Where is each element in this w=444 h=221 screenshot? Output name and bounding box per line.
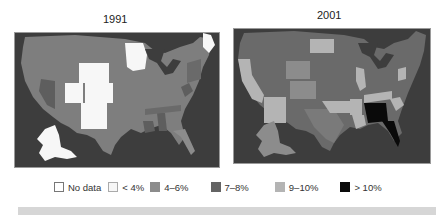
state-northeast: [187, 59, 201, 83]
map-1991: [14, 32, 220, 168]
swatch-9-10: [275, 182, 285, 192]
map-2001: [233, 28, 431, 164]
swatch-4-6: [150, 182, 160, 192]
swatch-lt4: [108, 182, 118, 192]
state-florida: [173, 129, 195, 155]
legend-item-7-8: 7–8%: [211, 182, 249, 193]
state-arkansas: [350, 99, 362, 115]
state-minnesota: [125, 43, 147, 71]
state-alaska: [256, 121, 296, 157]
state-new-mexico: [81, 103, 107, 129]
map-title-2001: 2001: [317, 9, 341, 21]
state-ohio-region: [398, 67, 406, 81]
state-arizona: [264, 97, 286, 123]
legend: No data < 4% 4–6% 7–8% 9–10% > 10%: [54, 180, 382, 194]
legend-label: 4–6%: [164, 182, 188, 193]
state-north-dakota: [310, 39, 334, 53]
us-map-2001: [234, 29, 431, 164]
legend-item-lt4: < 4%: [108, 182, 144, 193]
state-wyoming: [79, 63, 109, 83]
us-map-1991: [15, 33, 220, 168]
state-louisiana: [143, 121, 155, 133]
state-colorado: [85, 83, 113, 103]
legend-label: 9–10%: [289, 182, 319, 193]
legend-label: No data: [68, 182, 101, 193]
state-alaska: [37, 125, 77, 161]
state-mississippi-alabama: [364, 103, 388, 123]
legend-label: 7–8%: [225, 182, 249, 193]
legend-item-4-6: 4–6%: [150, 182, 188, 193]
legend-label: > 10%: [354, 182, 381, 193]
state-colorado: [290, 81, 316, 99]
swatch-7-8: [211, 182, 221, 192]
divider-bar: [18, 207, 436, 215]
legend-item-9-10: 9–10%: [275, 182, 319, 193]
swatch-gt10: [340, 182, 350, 192]
state-utah: [65, 83, 83, 103]
state-wyoming: [286, 61, 310, 79]
legend-label: < 4%: [122, 182, 144, 193]
map-title-1991: 1991: [103, 13, 127, 25]
legend-item-no-data: No data: [54, 182, 101, 193]
swatch-no-data: [54, 182, 64, 192]
legend-item-gt10: > 10%: [340, 182, 381, 193]
